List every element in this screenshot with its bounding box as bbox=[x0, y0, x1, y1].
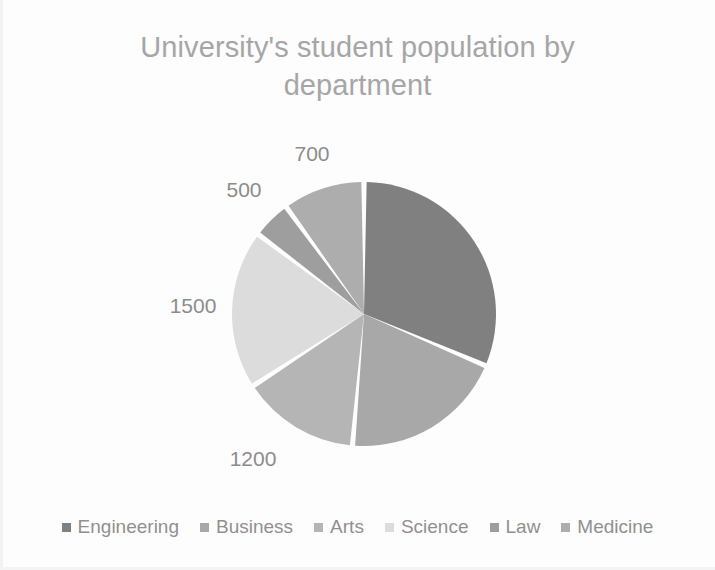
legend-label: Engineering bbox=[78, 516, 179, 538]
data-label-science: 1500 bbox=[170, 294, 217, 318]
pie-chart bbox=[0, 0, 715, 510]
legend-swatch-icon bbox=[200, 523, 209, 532]
legend-label: Science bbox=[401, 516, 469, 538]
plot-area: 70050015001200 bbox=[0, 0, 715, 510]
legend-item-science[interactable]: Science bbox=[385, 516, 469, 538]
legend-swatch-icon bbox=[62, 523, 71, 532]
legend-label: Arts bbox=[330, 516, 364, 538]
legend-item-business[interactable]: Business bbox=[200, 516, 293, 538]
data-label-law: 500 bbox=[226, 178, 261, 202]
legend-label: Medicine bbox=[577, 516, 653, 538]
chart-container: University's student population by depar… bbox=[0, 0, 715, 570]
legend-label: Business bbox=[216, 516, 293, 538]
legend-swatch-icon bbox=[490, 523, 499, 532]
legend-item-medicine[interactable]: Medicine bbox=[561, 516, 653, 538]
chart-legend: EngineeringBusinessArtsScienceLawMedicin… bbox=[0, 516, 715, 538]
legend-swatch-icon bbox=[385, 523, 394, 532]
data-label-business: 1200 bbox=[230, 447, 277, 471]
legend-label: Law bbox=[506, 516, 541, 538]
legend-swatch-icon bbox=[561, 523, 570, 532]
legend-item-engineering[interactable]: Engineering bbox=[62, 516, 179, 538]
legend-swatch-icon bbox=[314, 523, 323, 532]
legend-item-arts[interactable]: Arts bbox=[314, 516, 364, 538]
legend-item-law[interactable]: Law bbox=[490, 516, 541, 538]
data-label-medicine: 700 bbox=[294, 142, 329, 166]
